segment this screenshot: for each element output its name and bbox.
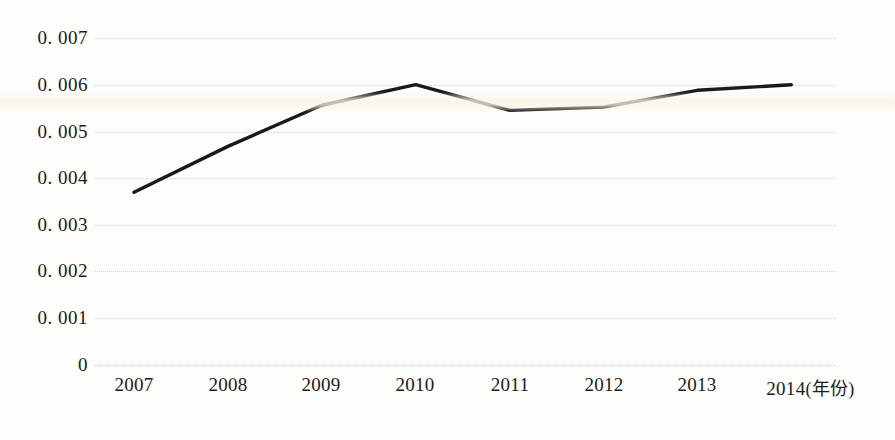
figure-caption-sliver (0, 431, 895, 440)
x-axis-tick-label-2013: 2013 (677, 374, 716, 396)
x-axis-last-year: 2014 (766, 378, 805, 399)
x-axis-tick-label-2007: 2007 (114, 374, 153, 396)
x-axis-tick-label-2008: 2008 (208, 374, 247, 396)
x-axis-tick-label-2011: 2011 (491, 374, 530, 396)
data-series-line (134, 85, 791, 192)
x-axis-unit-label: (年份) (805, 379, 854, 399)
line-chart: 0. 007 0. 006 0. 005 0. 004 0. 003 0. 00… (0, 0, 895, 440)
x-axis-tick-label-2010: 2010 (395, 374, 434, 396)
x-axis-tick-label-2009: 2009 (301, 374, 340, 396)
x-axis-tick-label-2014: 2014(年份) (766, 374, 854, 400)
x-axis-tick-label-2012: 2012 (584, 374, 623, 396)
